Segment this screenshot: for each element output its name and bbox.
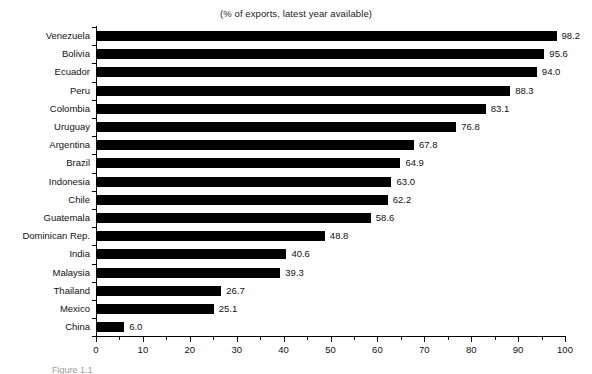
- x-axis-minor-tick: [307, 337, 308, 340]
- x-axis-minor-tick: [213, 337, 214, 340]
- bar-value-label: 25.1: [219, 302, 238, 315]
- bar: [96, 140, 414, 150]
- bar: [96, 268, 280, 278]
- bar-value-label: 26.7: [226, 284, 245, 297]
- y-axis-tick: [92, 245, 96, 246]
- bar-row: 39.3Malaysia: [96, 264, 565, 282]
- bar-value-label: 58.6: [376, 211, 395, 224]
- y-axis-tick: [92, 282, 96, 283]
- x-axis-minor-tick: [354, 337, 355, 340]
- bar: [96, 304, 214, 314]
- bar-row: 63.0Indonesia: [96, 173, 565, 191]
- bar-value-label: 95.6: [549, 47, 568, 60]
- bar-value-label: 64.9: [405, 156, 424, 169]
- bar-value-label: 40.6: [291, 247, 310, 260]
- bar-row: 95.6Bolivia: [96, 45, 565, 63]
- figure-caption: Figure 1.1: [52, 365, 93, 374]
- x-axis-minor-tick: [260, 337, 261, 340]
- bar-row: 26.7Thailand: [96, 282, 565, 300]
- x-axis-tick-label: 40: [264, 343, 304, 356]
- x-axis-tick: [377, 337, 378, 342]
- x-axis-tick-label: 0: [76, 343, 116, 356]
- x-axis-minor-tick: [495, 337, 496, 340]
- bar: [96, 67, 537, 77]
- category-label: Argentina: [0, 138, 90, 151]
- bar-row: 67.8Argentina: [96, 136, 565, 154]
- x-axis-minor-tick: [542, 337, 543, 340]
- x-axis-tick-label: 90: [498, 343, 538, 356]
- y-axis-tick: [92, 300, 96, 301]
- category-label: Mexico: [0, 302, 90, 315]
- x-axis-minor-tick: [401, 337, 402, 340]
- y-axis-tick: [92, 63, 96, 64]
- bar: [96, 31, 557, 41]
- y-axis-tick: [92, 82, 96, 83]
- x-axis-tick-label: 60: [357, 343, 397, 356]
- bar-row: 48.8Dominican Rep.: [96, 227, 565, 245]
- bar-value-label: 63.0: [396, 175, 415, 188]
- y-axis-tick: [92, 27, 96, 28]
- x-axis-tick-label: 20: [170, 343, 210, 356]
- y-axis-tick: [92, 173, 96, 174]
- bar: [96, 249, 286, 259]
- bar-row: 64.9Brazil: [96, 154, 565, 172]
- category-label: Uruguay: [0, 120, 90, 133]
- x-axis-tick: [471, 337, 472, 342]
- bar: [96, 158, 400, 168]
- category-label: Guatemala: [0, 211, 90, 224]
- x-axis-tick: [143, 337, 144, 342]
- bar-value-label: 6.0: [129, 320, 142, 333]
- x-axis-tick-label: 70: [404, 343, 444, 356]
- bar-value-label: 39.3: [285, 266, 304, 279]
- x-axis-tick-label: 100: [545, 343, 585, 356]
- bar: [96, 104, 486, 114]
- bar: [96, 322, 124, 332]
- bar: [96, 86, 510, 96]
- category-label: Ecuador: [0, 65, 90, 78]
- bar-row: 58.6Guatemala: [96, 209, 565, 227]
- x-axis-tick: [518, 337, 519, 342]
- bar: [96, 231, 325, 241]
- bar: [96, 195, 388, 205]
- x-axis-minor-tick: [119, 337, 120, 340]
- category-label: Chile: [0, 193, 90, 206]
- category-label: Malaysia: [0, 266, 90, 279]
- x-axis-minor-tick: [166, 337, 167, 340]
- bar-value-label: 62.2: [393, 193, 412, 206]
- bar: [96, 213, 371, 223]
- category-label: Indonesia: [0, 175, 90, 188]
- bar: [96, 122, 456, 132]
- y-axis-tick: [92, 264, 96, 265]
- bar-value-label: 48.8: [330, 229, 349, 242]
- bar-value-label: 88.3: [515, 84, 534, 97]
- y-axis-tick: [92, 118, 96, 119]
- x-axis-tick-label: 50: [311, 343, 351, 356]
- category-label: Colombia: [0, 102, 90, 115]
- category-label: Thailand: [0, 284, 90, 297]
- category-label: India: [0, 247, 90, 260]
- bar-value-label: 83.1: [491, 102, 510, 115]
- bar-row: 83.1Colombia: [96, 100, 565, 118]
- x-axis-tick: [331, 337, 332, 342]
- x-axis-minor-tick: [448, 337, 449, 340]
- x-axis-tick: [284, 337, 285, 342]
- bar-value-label: 94.0: [542, 65, 561, 78]
- category-label: Venezuela: [0, 29, 90, 42]
- x-axis-tick-label: 10: [123, 343, 163, 356]
- category-label: Bolivia: [0, 47, 90, 60]
- category-label: Dominican Rep.: [0, 229, 90, 242]
- x-axis-tick: [424, 337, 425, 342]
- x-axis-tick-label: 30: [217, 343, 257, 356]
- bar-row: 88.3Peru: [96, 82, 565, 100]
- y-axis-tick: [92, 227, 96, 228]
- bar-row: 98.2Venezuela: [96, 27, 565, 45]
- bar-row: 62.2Chile: [96, 191, 565, 209]
- bar-value-label: 98.2: [562, 29, 581, 42]
- y-axis-tick: [92, 100, 96, 101]
- y-axis-tick: [92, 45, 96, 46]
- bar-row: 25.1Mexico: [96, 300, 565, 318]
- bar-row: 40.6India: [96, 245, 565, 263]
- y-axis-tick: [92, 209, 96, 210]
- x-axis-tick: [237, 337, 238, 342]
- bar-value-label: 76.8: [461, 120, 480, 133]
